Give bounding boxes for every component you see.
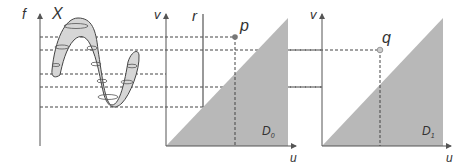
q-label: q bbox=[382, 30, 391, 46]
point-p bbox=[232, 34, 238, 40]
p-label: p bbox=[240, 18, 249, 34]
v-label-d1: v bbox=[310, 8, 317, 21]
d0-label: D0 bbox=[262, 125, 275, 139]
x-label: X bbox=[52, 6, 63, 22]
point-q bbox=[377, 47, 383, 53]
d1-label: D1 bbox=[422, 125, 435, 139]
u-label-d1: u bbox=[446, 152, 453, 164]
f-label: f bbox=[22, 7, 26, 21]
level-lines bbox=[40, 37, 380, 107]
u-label-d0: u bbox=[290, 152, 297, 164]
r-label: r bbox=[192, 8, 197, 23]
diagram: f X v r p D0 u v q D1 u bbox=[0, 0, 474, 167]
v-label-d0: v bbox=[154, 8, 161, 21]
diagram-graphics bbox=[0, 0, 474, 167]
